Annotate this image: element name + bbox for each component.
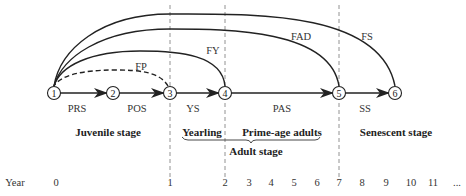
life-cycle-diagram: 1 2 3 4 5 6 — [0, 0, 466, 196]
year-axis-label: Year — [5, 177, 24, 189]
node-6: 6 — [389, 87, 402, 100]
year-tick-8: 8 — [359, 177, 364, 189]
year-tick-11: 11 — [428, 177, 438, 189]
transition-label-pas: PAS — [273, 103, 291, 115]
stage-label-adult: Adult stage — [229, 145, 282, 157]
transition-label-pos: POS — [127, 103, 146, 115]
stage-label-juvenile: Juvenile stage — [75, 126, 141, 138]
arc-label-fy: FY — [206, 45, 219, 57]
year-tick-6: 6 — [314, 177, 319, 189]
stage-label-yearling: Yearling — [182, 126, 222, 138]
node-4: 4 — [219, 87, 232, 100]
node-2: 2 — [107, 87, 120, 100]
arc-label-fs: FS — [361, 31, 373, 43]
stage-label-senescent: Senescent stage — [360, 126, 432, 138]
year-tick-1: 1 — [167, 177, 172, 189]
year-tick-4: 4 — [268, 177, 273, 189]
node-label: 1 — [52, 88, 57, 99]
transition-label-ss: SS — [359, 103, 371, 115]
node-label: 4 — [223, 88, 228, 99]
year-tick-3: 3 — [246, 177, 251, 189]
year-tick-7: 7 — [336, 177, 341, 189]
transition-label-prs: PRS — [68, 103, 87, 115]
year-tick-2: 2 — [222, 177, 227, 189]
fecundity-arcs — [54, 14, 395, 86]
year-tick-10: 10 — [406, 177, 417, 189]
year-tick-5: 5 — [291, 177, 296, 189]
arc-fs — [54, 14, 395, 86]
node-5: 5 — [333, 87, 346, 100]
arc-fp — [54, 70, 168, 86]
year-tick-ellipsis: ... — [453, 177, 461, 189]
transition-label-ys: YS — [186, 103, 199, 115]
node-1: 1 — [48, 87, 61, 100]
node-3: 3 — [164, 87, 177, 100]
arc-label-fp: FP — [135, 61, 147, 73]
stage-label-prime-age: Prime-age adults — [242, 126, 322, 138]
year-tick-0: 0 — [53, 177, 58, 189]
node-label: 3 — [168, 88, 173, 99]
node-label: 6 — [393, 88, 398, 99]
node-label: 5 — [337, 88, 342, 99]
diagram-canvas: 1 2 3 4 5 6 — [0, 0, 466, 196]
node-label: 2 — [111, 88, 116, 99]
year-tick-9: 9 — [383, 177, 388, 189]
arc-label-fad: FAD — [291, 31, 311, 43]
